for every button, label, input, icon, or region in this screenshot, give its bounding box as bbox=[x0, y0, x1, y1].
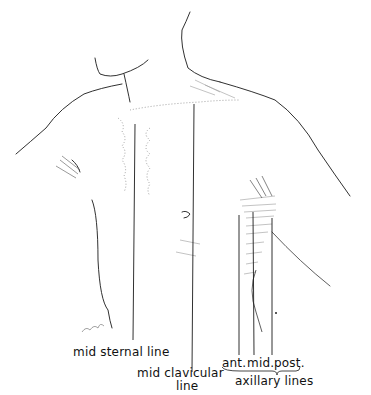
label-mid: mid. bbox=[247, 356, 274, 370]
shading-hatch bbox=[56, 80, 276, 274]
body-outline bbox=[16, 12, 350, 328]
label-posterior: post. bbox=[274, 356, 305, 370]
artist-signature bbox=[82, 324, 104, 332]
label-mid-clavicular: mid clavicular bbox=[137, 366, 224, 380]
label-mid-clavicular-line: line bbox=[176, 379, 198, 393]
label-mid-sternal-line: mid sternal line bbox=[73, 345, 169, 359]
mid-sternal-line bbox=[133, 124, 135, 340]
mid-clavicular-line bbox=[192, 104, 194, 372]
chest-illustration bbox=[0, 0, 371, 395]
rib-outline-dotted bbox=[118, 100, 240, 196]
label-anterior: ant. bbox=[222, 356, 246, 370]
marker-dot bbox=[275, 312, 277, 314]
reference-lines bbox=[133, 104, 272, 372]
label-axillary-lines: axillary lines bbox=[235, 374, 313, 388]
